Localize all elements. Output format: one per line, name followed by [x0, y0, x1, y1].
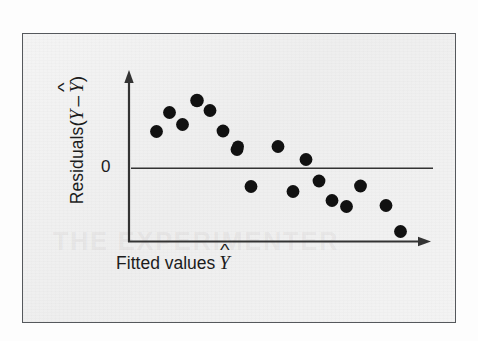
x-axis-label: Fitted valuesY	[23, 252, 323, 274]
y-axis-var-yhat: Y	[66, 82, 88, 93]
data-point	[245, 180, 258, 193]
data-point	[313, 175, 326, 188]
data-point	[394, 225, 407, 238]
zero-tick-label: 0	[101, 157, 110, 177]
x-axis-label-text: Fitted values	[116, 253, 215, 273]
data-point	[190, 94, 204, 108]
data-point	[287, 185, 300, 198]
figure-frame: THE EXPERIMENTER	[22, 33, 456, 323]
data-point	[176, 118, 189, 131]
data-point	[232, 141, 244, 153]
data-point	[354, 180, 367, 193]
data-point	[272, 140, 285, 153]
y-axis-minus-sign: –	[66, 93, 87, 110]
y-axis-open-paren: (	[66, 120, 87, 126]
data-points-group	[150, 94, 407, 238]
y-axis-var-y: Y	[66, 109, 87, 120]
data-point	[326, 194, 339, 207]
data-point	[163, 106, 176, 119]
data-point	[380, 199, 393, 212]
y-axis-label: Residuals(Y–Y)	[66, 50, 88, 230]
scanned-page: THE EXPERIMENTER	[0, 0, 478, 341]
data-point	[150, 125, 163, 138]
data-point	[300, 153, 313, 166]
y-axis-arrowhead	[124, 70, 133, 83]
x-axis-var-yhat: Y	[219, 252, 230, 274]
y-axis-label-text: Residuals	[67, 127, 87, 205]
data-point	[204, 104, 217, 117]
data-point	[340, 200, 353, 213]
x-axis-arrowhead	[418, 237, 431, 246]
data-point	[217, 125, 230, 138]
